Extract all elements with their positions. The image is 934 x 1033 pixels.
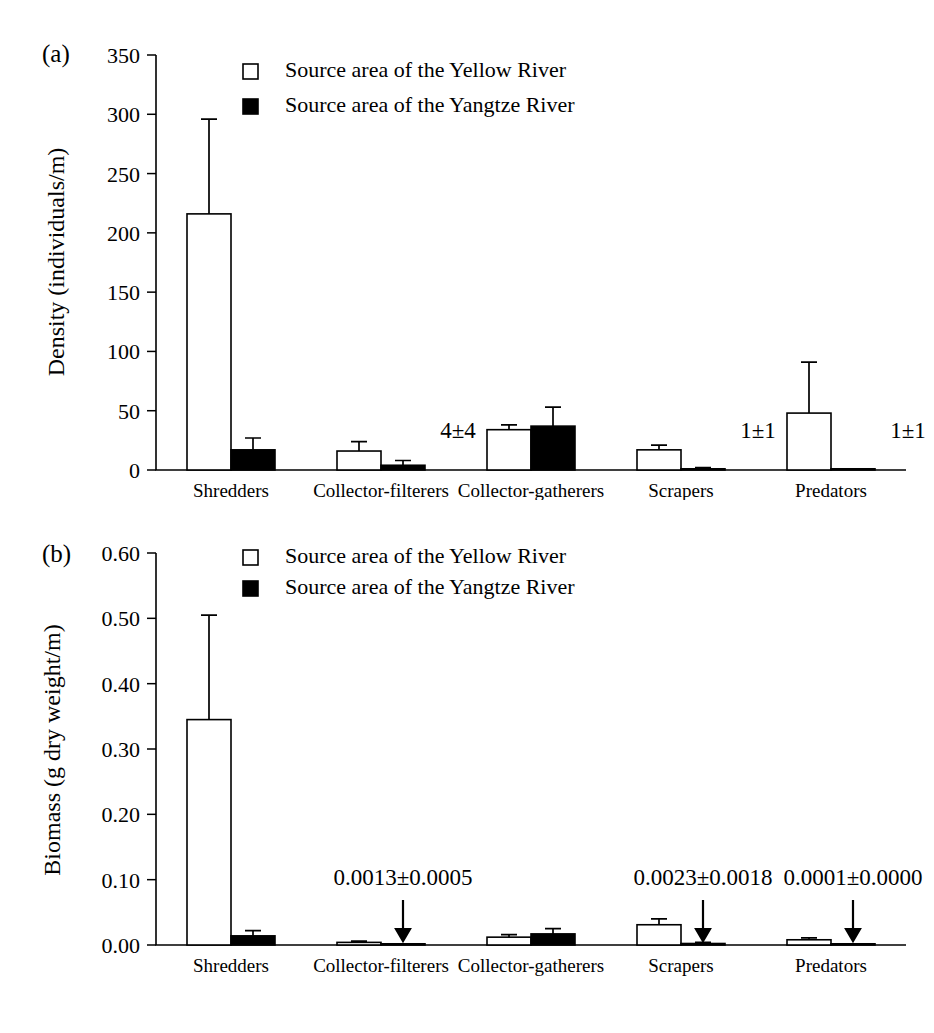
annotation-arrowhead-icon <box>396 929 410 941</box>
y-tick-label: 200 <box>107 221 140 246</box>
panel-a-error-bars <box>201 119 817 469</box>
panel-b-annotations: 0.0013±0.00050.0023±0.00180.0001±0.0000 <box>333 865 922 941</box>
panel-b-bars <box>187 720 875 945</box>
y-tick-label: 150 <box>107 280 140 305</box>
bar <box>681 943 725 945</box>
annotation-label: 1±1 <box>740 418 776 443</box>
panel-a-axes <box>156 55 906 470</box>
panel-b-y-axis-title: Biomass (g dry weight/m) <box>39 624 65 875</box>
panel-b-category-labels: ShreddersCollector-filterersCollector-ga… <box>193 955 867 976</box>
bar <box>681 469 725 470</box>
legend-entry-label: Source area of the Yellow River <box>285 57 567 82</box>
annotation-label: 0.0001±0.0000 <box>783 865 922 890</box>
y-tick-label: 0.50 <box>102 606 141 631</box>
error-bar <box>651 919 667 925</box>
bar <box>487 937 531 945</box>
y-tick-label: 100 <box>107 339 140 364</box>
legend-entry-label: Source area of the Yellow River <box>285 543 567 568</box>
y-tick-label: 0 <box>129 458 140 483</box>
bar <box>381 465 425 470</box>
category-label: Shredders <box>193 480 269 500</box>
panel-a-density-chart: (a) Density (individuals/m) 050100150200… <box>0 0 934 500</box>
y-tick-label: 0.60 <box>102 541 141 566</box>
bar <box>831 469 875 470</box>
error-bar <box>201 119 217 214</box>
bar <box>531 934 575 945</box>
bar <box>637 925 681 945</box>
error-bar <box>545 407 561 426</box>
panel-a-category-labels: ShreddersCollector-filterersCollector-ga… <box>193 480 867 500</box>
open-square-swatch <box>243 550 258 565</box>
panel-b-y-tick-labels: 0.000.100.200.300.400.500.60 <box>102 541 141 958</box>
category-label: Shredders <box>193 955 269 976</box>
y-tick-label: 0.40 <box>102 672 141 697</box>
filled-square-swatch <box>243 581 258 596</box>
bar <box>337 451 381 470</box>
bar <box>231 936 275 945</box>
filled-square-swatch <box>243 99 258 114</box>
figure-root: (a) Density (individuals/m) 050100150200… <box>0 0 934 1033</box>
y-tick-label: 0.20 <box>102 802 141 827</box>
bar <box>187 214 231 470</box>
category-label: Predators <box>795 955 867 976</box>
annotation-arrowhead-icon <box>846 929 860 941</box>
bar <box>187 720 231 945</box>
annotation-label: 4±4 <box>440 418 476 443</box>
legend-entry-label: Source area of the Yangtze River <box>285 92 575 117</box>
panel-b-error-bars <box>201 615 817 944</box>
open-square-swatch <box>243 64 258 79</box>
panel-a-y-axis-title: Density (individuals/m) <box>43 148 69 377</box>
y-tick-label: 0.10 <box>102 868 141 893</box>
panel-a-label: (a) <box>42 40 70 68</box>
error-bar <box>201 615 217 720</box>
category-label: Scrapers <box>648 480 713 500</box>
y-tick-label: 350 <box>107 43 140 68</box>
category-label: Collector-gatherers <box>458 955 604 976</box>
bar <box>787 413 831 470</box>
error-bar <box>245 438 261 450</box>
y-tick-label: 250 <box>107 162 140 187</box>
panel-b-y-tick-marks <box>147 553 156 945</box>
bar <box>831 944 875 945</box>
panel-a-y-tick-marks <box>147 55 156 470</box>
category-label: Collector-filterers <box>313 480 449 500</box>
y-tick-label: 300 <box>107 102 140 127</box>
annotation-label: 0.0023±0.0018 <box>633 865 772 890</box>
y-tick-label: 0.30 <box>102 737 141 762</box>
y-tick-label: 0.00 <box>102 933 141 958</box>
bar <box>487 430 531 470</box>
bar <box>337 942 381 945</box>
bar <box>787 940 831 945</box>
panel-a-legend: Source area of the Yellow RiverSource ar… <box>243 57 575 117</box>
annotation-arrowhead-icon <box>696 929 710 941</box>
panel-b-legend: Source area of the Yellow RiverSource ar… <box>243 543 575 599</box>
category-label: Collector-gatherers <box>458 480 604 500</box>
y-tick-label: 50 <box>118 399 140 424</box>
annotation-label: 0.0013±0.0005 <box>333 865 472 890</box>
category-label: Scrapers <box>648 955 713 976</box>
panel-a-y-tick-labels: 050100150200250300350 <box>107 43 140 483</box>
annotation-label: 1±1 <box>890 418 926 443</box>
panel-b-label: (b) <box>42 540 71 568</box>
panel-b-biomass-chart: (b) Biomass (g dry weight/m) 0.000.100.2… <box>0 500 934 1033</box>
error-bar <box>801 362 817 413</box>
bar <box>531 426 575 470</box>
bar <box>231 450 275 470</box>
legend-entry-label: Source area of the Yangtze River <box>285 574 575 599</box>
category-label: Predators <box>795 480 867 500</box>
bar <box>637 450 681 470</box>
error-bar <box>351 442 367 451</box>
category-label: Collector-filterers <box>313 955 449 976</box>
